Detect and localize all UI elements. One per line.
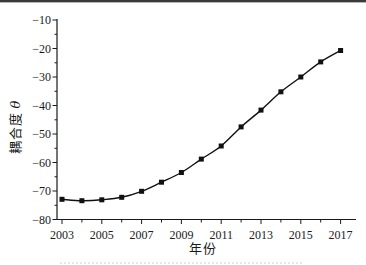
data-point-marker — [119, 195, 124, 200]
y-axis-title: 耦合度 θ — [5, 100, 24, 154]
x-tick-label: 2017 — [329, 228, 353, 242]
x-tick-label: 2015 — [289, 228, 313, 242]
cropped-caption-artifact — [60, 262, 302, 264]
data-point-marker — [298, 75, 303, 80]
data-point-marker — [79, 198, 84, 203]
x-tick-label: 2007 — [130, 228, 154, 242]
data-point-marker — [139, 189, 144, 194]
y-tick-label: −40 — [32, 99, 51, 113]
y-tick-label: −30 — [32, 70, 51, 84]
data-series-line — [62, 51, 341, 201]
data-point-marker — [338, 48, 343, 53]
data-point-marker — [259, 108, 264, 113]
line-chart-figure: −10−20−30−40−50−60−70−802003200520072009… — [0, 0, 366, 265]
y-tick-label: −80 — [32, 213, 51, 227]
data-point-marker — [179, 170, 184, 175]
y-tick-label: −50 — [32, 127, 51, 141]
data-point-marker — [60, 197, 65, 202]
data-point-marker — [278, 89, 283, 94]
data-point-marker — [199, 157, 204, 162]
theta-symbol: θ — [8, 100, 23, 109]
y-tick-label: −10 — [32, 13, 51, 27]
y-tick-label: −70 — [32, 184, 51, 198]
y-axis-title-text: 耦合度 — [8, 112, 23, 154]
data-point-marker — [159, 180, 164, 185]
data-point-marker — [318, 59, 323, 64]
data-point-marker — [99, 197, 104, 202]
y-tick-label: −20 — [32, 42, 51, 56]
x-axis-title: 年份 — [189, 238, 217, 257]
x-tick-label: 2013 — [249, 228, 273, 242]
x-tick-label: 2003 — [50, 228, 74, 242]
data-point-marker — [239, 124, 244, 129]
axes-spines — [57, 19, 356, 220]
data-point-marker — [219, 144, 224, 149]
x-tick-label: 2005 — [90, 228, 114, 242]
y-tick-label: −60 — [32, 156, 51, 170]
chart-canvas: −10−20−30−40−50−60−70−802003200520072009… — [0, 0, 366, 265]
